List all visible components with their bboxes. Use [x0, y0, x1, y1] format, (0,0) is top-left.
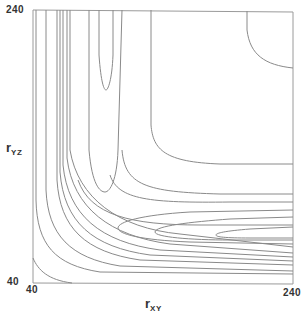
contour-l-3 — [57, 10, 293, 265]
y-axis-title: rYZ — [6, 140, 22, 157]
x-axis-title-sub: XY — [150, 304, 162, 313]
contour-upper-right-arc — [247, 11, 293, 68]
contour-u-inner — [99, 10, 113, 90]
contour-l-2 — [46, 10, 293, 271]
contour-l-broad — [151, 10, 293, 164]
y-axis-title-sub: YZ — [11, 148, 22, 157]
contour-l-4 — [60, 10, 293, 261]
x-max-tick: 240 — [283, 287, 301, 298]
contour-plot — [0, 0, 307, 317]
contour-l-5 — [63, 10, 293, 257]
x-axis-title: rXY — [145, 296, 162, 313]
contour-l-1 — [36, 10, 293, 274]
x-min-tick: 40 — [26, 284, 38, 295]
contour-l-7 — [70, 10, 293, 247]
y-max-tick: 240 — [6, 4, 24, 15]
contour-ellipse-inner — [216, 227, 293, 238]
contour-u-outer — [89, 10, 122, 192]
y-min-tick: 40 — [7, 276, 19, 287]
contour-l-right-2 — [122, 150, 293, 194]
contour-ellipse-mid — [155, 217, 293, 240]
contour-l-right-3 — [110, 175, 293, 202]
contour-l-6 — [67, 10, 293, 253]
